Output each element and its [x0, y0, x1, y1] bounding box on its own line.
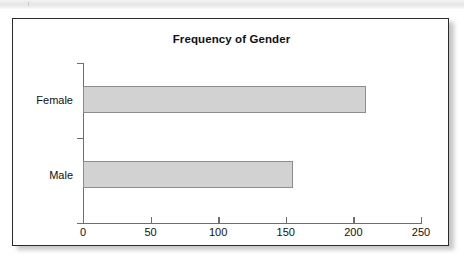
y-axis-tick-top: [77, 63, 84, 64]
x-axis-label-0: 0: [63, 226, 103, 238]
x-axis-tick-50: [151, 217, 152, 224]
x-axis-tick-200: [353, 217, 354, 224]
x-axis-label-250: 250: [401, 226, 441, 238]
category-label-female: Female: [13, 94, 73, 106]
x-axis-label-50: 50: [131, 226, 171, 238]
x-axis-tick-100: [218, 217, 219, 224]
bar-female: [83, 86, 366, 113]
y-axis-tick-middle: [77, 138, 84, 139]
bar-male: [83, 161, 293, 188]
plot-area: Female Male 0 50 100 150 200 250: [13, 19, 450, 247]
x-axis-label-200: 200: [333, 226, 373, 238]
x-axis-line: [83, 223, 421, 224]
x-axis-label-100: 100: [198, 226, 238, 238]
category-label-male: Male: [13, 169, 73, 181]
chart-figure-frame: Frequency of Gender Female Male 0 50 100…: [12, 18, 449, 246]
x-axis-tick-0: [83, 217, 84, 224]
x-axis-label-150: 150: [266, 226, 306, 238]
x-axis-tick-250: [421, 217, 422, 224]
scan-artifact-band: [0, 0, 464, 9]
x-axis-tick-150: [286, 217, 287, 224]
